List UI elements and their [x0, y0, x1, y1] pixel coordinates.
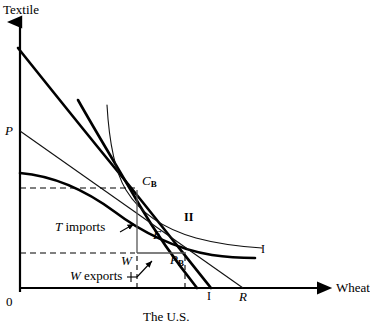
consumption-point-label: CB [142, 174, 157, 187]
ratio-point-label: R [239, 290, 247, 303]
figure-container: Textile Wheat 0 P CB F W PB II I I R T i… [0, 0, 370, 326]
consumption-point-letter: C [142, 173, 151, 188]
production-wheat-letter: P [170, 252, 178, 267]
wheat-quantity-label: W [121, 254, 132, 267]
exports-annotation: W exports [70, 269, 122, 282]
curve-two-label: II [184, 211, 193, 223]
exports-leader-line [137, 261, 152, 277]
figure-caption: The U.S. [143, 310, 190, 323]
chart-canvas [0, 0, 370, 326]
production-wheat-subscript: B [178, 258, 184, 268]
imports-leader-line [120, 224, 134, 232]
production-wheat-label: PB [170, 253, 184, 266]
consumption-point-subscript: B [151, 179, 157, 189]
y-axis-label: Textile [3, 3, 39, 16]
imports-annotation: T imports [55, 220, 105, 233]
x-axis-label: Wheat [336, 281, 370, 294]
price-intercept-label: P [5, 124, 13, 137]
origin-label: 0 [6, 295, 13, 308]
curve-one-right-label: I [261, 243, 265, 255]
offer-curve-outer [18, 48, 211, 288]
curve-one-axis-label: I [207, 290, 211, 302]
production-point-label: F [153, 228, 161, 241]
